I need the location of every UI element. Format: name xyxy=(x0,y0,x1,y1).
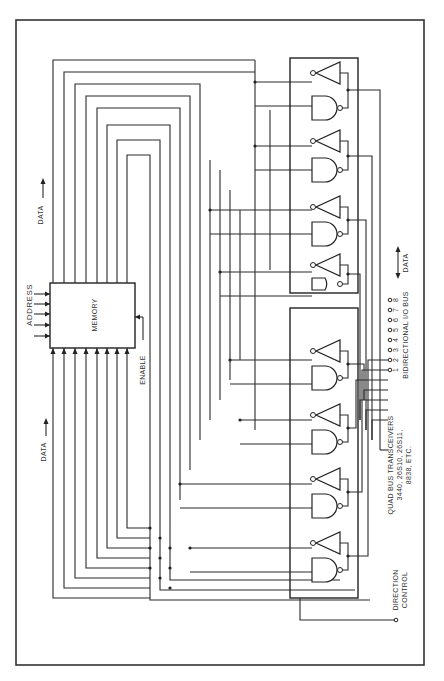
direction-control-lead xyxy=(300,598,398,622)
svg-text:1: 1 xyxy=(392,368,399,372)
circuit-diagram: MEMORY ADDRESS ENABLE DATA DATA xyxy=(0,0,444,681)
memory-label: MEMORY xyxy=(91,298,98,331)
direction-control-label-2: CONTROL xyxy=(401,572,408,608)
memory-data-in-bus xyxy=(53,348,150,598)
distribution-lines xyxy=(180,60,255,500)
memory-data-in-arrows xyxy=(51,348,130,354)
bus-pin-leads xyxy=(348,360,388,556)
svg-text:7: 7 xyxy=(392,308,399,312)
data-out-label: DATA xyxy=(37,206,44,225)
bidirectional-data-arrow-icon xyxy=(396,246,401,279)
bus-pin-numbers: 1 2 3 4 5 6 7 8 xyxy=(392,298,399,372)
transceiver-title: QUAD BUS TRANSCEIVERS xyxy=(387,415,395,514)
transceiver-gates xyxy=(311,62,381,582)
svg-text:3: 3 xyxy=(392,348,399,352)
transceiver-parts-2: 8838, ETC. xyxy=(405,446,412,484)
memory-data-out-bus xyxy=(53,60,255,283)
transceiver-parts-1: 3440, 26S10, 26S11, xyxy=(396,430,403,501)
address-arrows xyxy=(34,292,50,339)
data-out-arrow-icon xyxy=(41,178,46,198)
data-bidir-label: DATA xyxy=(402,254,409,273)
svg-text:8: 8 xyxy=(392,298,399,302)
svg-text:6: 6 xyxy=(392,318,399,322)
enable-arrow xyxy=(135,315,143,341)
enable-label: ENABLE xyxy=(139,355,146,384)
svg-text:4: 4 xyxy=(392,338,399,342)
direction-control-label-1: DIRECTION xyxy=(392,569,399,610)
bus-title: BIDIRECTIONAL I/O BUS xyxy=(402,291,409,378)
svg-text:2: 2 xyxy=(392,358,399,362)
data-in-arrow-icon xyxy=(44,418,49,436)
svg-text:5: 5 xyxy=(392,328,399,332)
data-in-label: DATA xyxy=(40,443,47,462)
address-label: ADDRESS xyxy=(25,284,34,326)
